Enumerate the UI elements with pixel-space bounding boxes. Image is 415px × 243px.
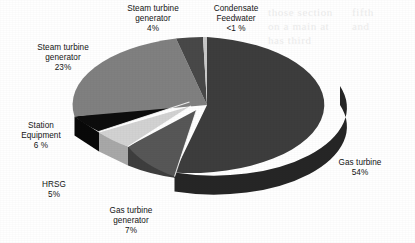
label-hrsg: HRSG 5% — [26, 180, 82, 200]
pie-chart-figure: those section on a main at has third fif… — [0, 0, 415, 243]
label-condensate-feedwater: Condensate Feedwater <1 % — [196, 4, 276, 35]
label-gas-turbine-generator: Gas turbine generator 7% — [88, 206, 174, 237]
label-station-equipment: Station Equipment 6 % — [4, 121, 78, 152]
label-gas-turbine: Gas turbine 54% — [322, 158, 398, 178]
label-steam-turbine-generator-4: Steam turbine generator 4% — [110, 4, 196, 35]
label-steam-turbine-generator-23: Steam turbine generator 23% — [18, 43, 108, 74]
